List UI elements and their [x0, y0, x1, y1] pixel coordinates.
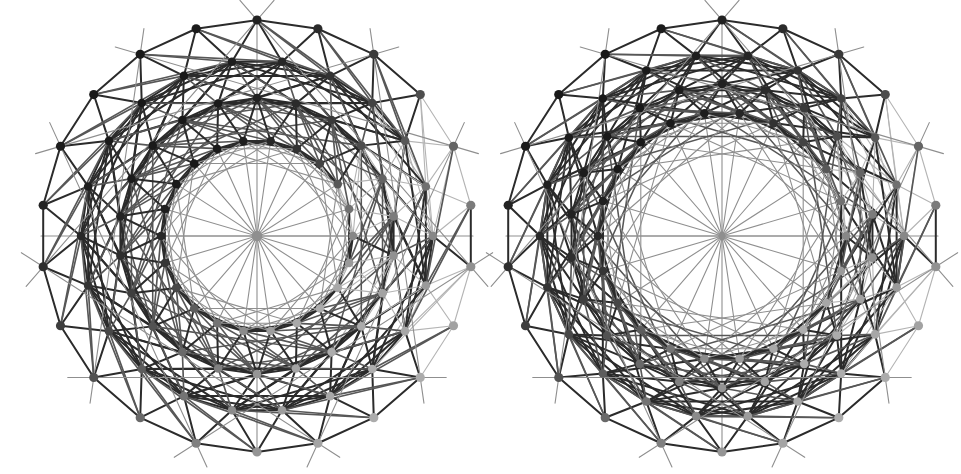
graph-edge — [803, 330, 804, 364]
graph-vertex — [599, 267, 608, 276]
graph-vertex — [253, 94, 262, 103]
graph-vertex — [326, 72, 335, 81]
graph-vertex — [466, 201, 475, 210]
graph-vertex — [137, 99, 146, 108]
graph-vertex — [735, 109, 744, 118]
graph-vertex — [192, 24, 201, 33]
graph-vertex — [466, 262, 475, 271]
graph-vertex — [931, 201, 940, 210]
graph-vertex — [856, 295, 865, 304]
graph-vertex — [369, 413, 378, 422]
graph-vertex — [599, 369, 608, 378]
graph-vertex — [368, 365, 377, 374]
graph-edge — [569, 136, 607, 137]
graph-vertex — [84, 281, 93, 290]
graph-vertex — [717, 447, 726, 456]
graph-vertex — [178, 348, 187, 357]
graph-vertex — [39, 262, 48, 271]
graph-vertex — [148, 322, 157, 331]
graph-vertex — [834, 50, 843, 59]
graph-vertex — [327, 116, 336, 125]
graph-vertex — [504, 201, 513, 210]
graph-vertex — [56, 142, 65, 151]
graph-vertex — [613, 165, 622, 174]
graph-vertex — [521, 142, 530, 151]
graph-vertex — [822, 299, 831, 308]
graph-vertex — [213, 144, 222, 153]
graph-vertex — [700, 354, 709, 363]
graph-vertex — [718, 80, 727, 89]
graph-vertex — [349, 232, 358, 241]
figure-background — [0, 0, 961, 474]
graph-vertex — [136, 413, 145, 422]
graph-vertex — [793, 66, 802, 75]
graph-vertex — [172, 180, 181, 189]
graph-vertex — [178, 116, 187, 125]
graph-vertex — [56, 321, 65, 330]
graph-vertex — [761, 378, 770, 387]
graph-vertex — [422, 182, 431, 191]
graph-vertex — [401, 327, 410, 336]
graph-edge — [640, 330, 641, 364]
graph-vertex — [89, 90, 98, 99]
graph-edge — [837, 136, 875, 137]
graph-edge — [569, 334, 607, 335]
graph-vertex — [637, 325, 646, 334]
graph-edge — [296, 104, 297, 149]
graph-vertex — [833, 331, 842, 340]
graph-vertex — [89, 373, 98, 382]
graph-vertex — [239, 137, 248, 146]
graph-vertex — [657, 24, 666, 33]
graph-vertex — [449, 321, 458, 330]
graph-vertex — [293, 319, 302, 328]
graph-vertex — [793, 397, 802, 406]
graph-vertex — [567, 253, 576, 262]
graph-vertex — [871, 330, 880, 339]
graph-vertex — [214, 364, 223, 373]
graph-vertex — [416, 90, 425, 99]
graph-vertex — [636, 104, 645, 113]
graph-vertex — [914, 142, 923, 151]
graph-vertex — [116, 212, 125, 221]
graph-vertex — [190, 159, 199, 168]
graph-vertex — [799, 138, 808, 147]
graph-vertex — [692, 412, 701, 421]
graph-vertex — [543, 283, 552, 292]
graph-vertex — [666, 119, 675, 128]
graph-vertex — [642, 66, 651, 75]
graph-vertex — [345, 205, 354, 214]
graph-vertex — [278, 406, 287, 415]
graph-vertex — [822, 165, 831, 174]
graph-vertex — [856, 169, 865, 178]
graph-vertex — [326, 392, 335, 401]
graph-vertex — [278, 58, 287, 67]
graph-vertex — [579, 295, 588, 304]
graph-vertex — [137, 365, 146, 374]
graph-vertex — [84, 182, 93, 191]
graph-vertex — [192, 439, 201, 448]
graph-vertex — [161, 259, 170, 268]
graph-vertex — [717, 15, 726, 24]
graph-vertex — [900, 232, 909, 241]
graph-vertex — [429, 232, 438, 241]
graph-vertex — [769, 119, 778, 128]
graph-vertex — [190, 304, 199, 313]
graph-vertex — [378, 289, 387, 298]
graph-vertex — [105, 327, 114, 336]
graph-vertex — [148, 141, 157, 150]
graph-vertex — [77, 232, 86, 241]
polytope-projection-figure — [0, 0, 961, 474]
graph-vertex — [127, 174, 136, 183]
graph-edge — [296, 368, 372, 369]
graph-vertex — [837, 267, 846, 276]
graph-vertex — [599, 197, 608, 206]
graph-vertex — [565, 330, 574, 339]
graph-vertex — [333, 180, 342, 189]
graph-vertex — [800, 360, 809, 369]
graph-vertex — [834, 413, 843, 422]
graph-vertex — [778, 439, 787, 448]
graph-vertex — [554, 90, 563, 99]
graph-vertex — [180, 72, 189, 81]
graph-vertex — [401, 137, 410, 146]
graph-vertex — [666, 345, 675, 354]
